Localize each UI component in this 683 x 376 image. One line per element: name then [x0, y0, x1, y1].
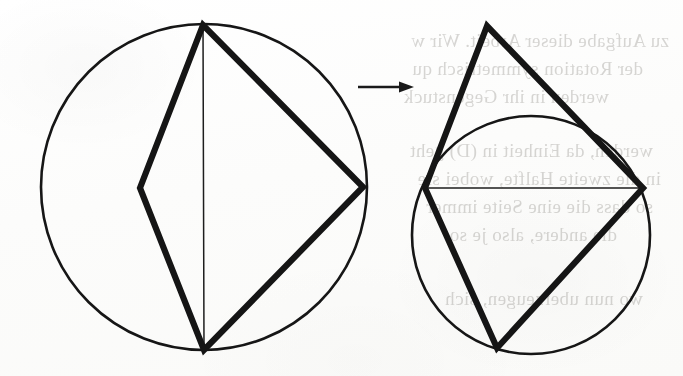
left-panel-group [41, 24, 367, 350]
transformation-arrow [358, 82, 414, 93]
left-vertical-chord [203, 25, 204, 350]
right-panel-group [412, 26, 650, 354]
right-kite-outline [425, 26, 643, 348]
left-kite-outline [140, 25, 363, 350]
geometry-figure [0, 0, 683, 376]
arrow-head-icon [399, 82, 414, 93]
scanned-page: zu Aufgabe dieser Arbeit. Wir w der Rota… [0, 0, 683, 376]
